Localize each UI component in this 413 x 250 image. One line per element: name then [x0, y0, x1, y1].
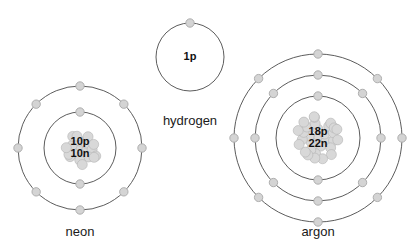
nucleon-particle [309, 112, 319, 122]
electron-argon-shell2-3 [377, 134, 385, 142]
electron-neon-shell2-8 [32, 100, 40, 108]
nucleus-label-neon-line2: 10n [71, 147, 90, 159]
nucleon-particle [89, 139, 99, 149]
nucleon-particle [77, 160, 87, 170]
electron-neon-shell1-1 [76, 108, 84, 116]
electron-neon-shell1-2 [76, 180, 84, 188]
electron-neon-shell2-1 [76, 82, 84, 90]
electron-neon-shell2-7 [14, 144, 22, 152]
nucleon-particle [89, 152, 99, 162]
electron-argon-shell2-7 [251, 134, 259, 142]
nucleus-label-neon-line1: 10p [71, 135, 90, 147]
electron-argon-shell2-2 [358, 89, 366, 97]
electron-argon-shell3-7 [230, 134, 238, 142]
atom-diagram-canvas: 1phydrogen10p10nneon18p22nargon [0, 0, 413, 250]
nucleon-particle [293, 126, 303, 136]
electron-neon-shell2-6 [32, 188, 40, 196]
element-label-neon: neon [66, 224, 95, 239]
electron-argon-shell3-2 [373, 74, 381, 82]
electron-argon-shell2-6 [269, 178, 277, 186]
electron-argon-shell2-1 [314, 71, 322, 79]
electron-argon-shell3-6 [254, 193, 262, 201]
electron-argon-shell2-4 [358, 178, 366, 186]
nucleon-particle [299, 117, 309, 127]
electron-argon-shell1-1 [314, 92, 322, 100]
element-label-hydrogen: hydrogen [163, 113, 217, 128]
atomic-structure-diagram: 1phydrogen10p10nneon18p22nargon [0, 0, 413, 250]
electron-argon-shell3-1 [314, 50, 322, 58]
nucleon-particle [332, 124, 342, 134]
atom-neon: 10p10nneon [14, 82, 146, 240]
electron-argon-shell1-2 [314, 176, 322, 184]
electron-argon-shell2-8 [269, 89, 277, 97]
nucleus-label-argon-line1: 18p [309, 125, 328, 137]
nucleus-label-argon-line2: 22n [309, 137, 328, 149]
element-label-argon: argon [301, 224, 334, 239]
electron-argon-shell3-4 [373, 193, 381, 201]
atoms-layer: 1phydrogen10p10nneon18p22nargon [14, 19, 406, 240]
atom-argon: 18p22nargon [230, 50, 406, 240]
nucleus-label-hydrogen-line1: 1p [184, 50, 197, 62]
electron-neon-shell2-4 [120, 188, 128, 196]
electron-argon-shell3-8 [254, 74, 262, 82]
nucleon-particle [294, 139, 304, 149]
nucleon-particle [326, 150, 336, 160]
electron-neon-shell2-5 [76, 206, 84, 214]
electron-argon-shell2-5 [314, 197, 322, 205]
electron-neon-shell2-2 [120, 100, 128, 108]
electron-neon-shell2-3 [138, 144, 146, 152]
electron-hydrogen-shell1-1 [186, 19, 194, 27]
atom-hydrogen: 1phydrogen [156, 19, 224, 129]
nucleon-particle [333, 135, 343, 145]
electron-argon-shell3-3 [398, 134, 406, 142]
